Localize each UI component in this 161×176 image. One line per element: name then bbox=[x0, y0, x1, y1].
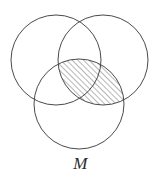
shaded-intersection-region bbox=[0, 0, 161, 176]
hatch-fill bbox=[0, 0, 161, 176]
venn-diagram-canvas bbox=[0, 0, 161, 176]
figure-label: M bbox=[0, 154, 161, 174]
venn-diagram-figure: M bbox=[0, 0, 161, 176]
